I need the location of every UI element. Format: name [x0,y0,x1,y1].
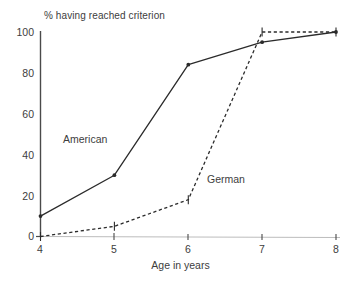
series-annotation-american: American [63,134,107,145]
x-tick-label-7: 7 [252,244,272,255]
x-axis-title: Age in years [0,260,361,271]
y-tick-label-100: 100 [8,27,34,38]
x-tick-label-8: 8 [326,244,346,255]
x-tick-label-5: 5 [104,244,124,255]
series-annotation-german: German [207,174,245,185]
y-tick-label-60: 60 [8,109,34,120]
y-tick-label-0: 0 [8,231,34,242]
y-tick-label-40: 40 [8,150,34,161]
data-point [260,40,264,44]
data-point [186,63,190,67]
chart-figure: % having reached criterion 100 80 60 40 … [0,0,361,288]
x-tick-label-6: 6 [178,244,198,255]
y-tick-label-20: 20 [8,191,34,202]
data-point [113,173,117,177]
x-tick-label-4: 4 [30,244,50,255]
series-line-american [41,32,337,216]
x-axis-line [40,237,340,238]
y-tick-label-80: 80 [8,68,34,79]
series-markers-american [39,30,338,218]
data-point [39,214,43,218]
